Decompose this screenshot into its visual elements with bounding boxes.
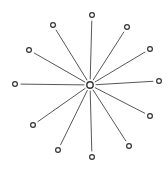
outer-node	[56, 148, 61, 153]
spoke-edge	[96, 81, 153, 84]
spoke-edge	[93, 32, 124, 80]
outer-node	[90, 155, 95, 160]
spoke-edge	[56, 30, 87, 80]
outer-node	[148, 114, 153, 119]
spoke-edge	[93, 90, 126, 141]
outer-node	[127, 144, 132, 149]
center-hub-node	[87, 82, 93, 88]
nodes-group	[13, 13, 162, 160]
outer-node	[27, 48, 32, 53]
spoke-edge	[34, 53, 85, 82]
outer-node	[90, 13, 95, 18]
spoke-edge	[61, 90, 88, 144]
star-diagram	[0, 0, 168, 172]
spoke-edge	[90, 21, 92, 79]
outer-node	[148, 47, 153, 52]
outer-node	[125, 25, 130, 30]
outer-node	[51, 23, 56, 28]
spoke-edge	[90, 91, 92, 151]
outer-node	[157, 79, 162, 84]
spoke-edge	[38, 88, 85, 121]
spoke-edge	[95, 88, 144, 113]
outer-node	[13, 82, 18, 87]
spoke-edge	[21, 84, 84, 85]
outer-node	[31, 123, 36, 128]
spoke-edge	[95, 52, 145, 82]
